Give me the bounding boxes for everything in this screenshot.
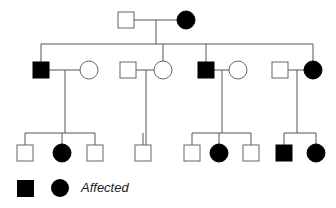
unaffected-male-square-icon bbox=[272, 62, 288, 78]
relationship-lines bbox=[25, 20, 316, 145]
unaffected-male-square-icon bbox=[87, 145, 103, 161]
unaffected-female-circle-icon bbox=[80, 61, 98, 79]
affected-male-square-icon bbox=[276, 145, 292, 161]
affected-female-circle-icon bbox=[210, 144, 228, 162]
legend-label: Affected bbox=[81, 180, 129, 195]
affected-female-circle-icon bbox=[53, 144, 71, 162]
unaffected-male-square-icon bbox=[135, 145, 151, 161]
legend-affected-female-icon bbox=[51, 179, 69, 197]
legend-symbols bbox=[17, 179, 69, 197]
individuals bbox=[17, 11, 325, 162]
legend-affected-male-icon bbox=[17, 180, 34, 197]
pedigree-chart bbox=[0, 0, 336, 208]
unaffected-male-square-icon bbox=[243, 145, 259, 161]
unaffected-male-square-icon bbox=[120, 62, 136, 78]
unaffected-male-square-icon bbox=[184, 145, 200, 161]
affected-female-circle-icon bbox=[304, 61, 322, 79]
unaffected-female-circle-icon bbox=[154, 61, 172, 79]
affected-male-square-icon bbox=[198, 62, 214, 78]
unaffected-male-square-icon bbox=[118, 12, 134, 28]
affected-male-square-icon bbox=[33, 62, 49, 78]
affected-female-circle-icon bbox=[177, 11, 195, 29]
unaffected-female-circle-icon bbox=[229, 61, 247, 79]
affected-female-circle-icon bbox=[307, 144, 325, 162]
unaffected-male-square-icon bbox=[17, 145, 33, 161]
